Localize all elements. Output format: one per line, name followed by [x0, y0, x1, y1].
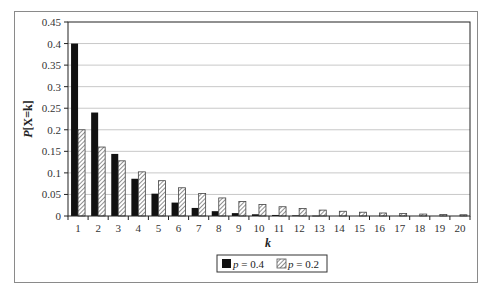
- y-tick-label: 0.3: [47, 81, 61, 93]
- bar-p04: [131, 179, 138, 216]
- x-tick-label: 5: [156, 222, 162, 234]
- bar-p04: [111, 154, 118, 216]
- x-axis: 1234567891011121314151617181920: [68, 216, 470, 234]
- legend: p = 0.4 p = 0.2: [217, 255, 327, 272]
- legend-swatch-solid-icon: [222, 259, 231, 268]
- x-tick-label: 18: [414, 222, 426, 234]
- x-tick-label: 13: [314, 222, 326, 234]
- bar-p02: [339, 211, 346, 216]
- y-tick-label: 0.45: [42, 16, 62, 28]
- y-tick-label: 0.25: [42, 102, 62, 114]
- bar-p02: [319, 210, 326, 216]
- y-tick-label: 0: [56, 210, 62, 222]
- x-tick-label: 10: [253, 222, 265, 234]
- x-tick-label: 15: [354, 222, 366, 234]
- x-tick-label: 7: [196, 222, 202, 234]
- bar-p04: [192, 208, 199, 216]
- x-tick-label: 11: [274, 222, 285, 234]
- y-tick-label: 0.35: [42, 59, 62, 71]
- bar-p04: [71, 44, 78, 216]
- x-tick-label: 8: [216, 222, 222, 234]
- plot-area: [68, 22, 470, 216]
- x-tick-label: 9: [236, 222, 242, 234]
- bar-p02: [239, 202, 246, 216]
- bar-p02: [359, 212, 366, 216]
- y-axis-title: P[X=k]: [21, 100, 35, 138]
- x-tick-label: 12: [294, 222, 305, 234]
- bar-p02: [279, 207, 286, 216]
- bar-p04: [151, 194, 158, 216]
- x-tick-label: 17: [394, 222, 406, 234]
- bar-p02: [98, 147, 105, 216]
- x-tick-label: 6: [176, 222, 182, 234]
- x-tick-label: 4: [136, 222, 142, 234]
- bar-p02: [118, 161, 125, 216]
- x-tick-label: 2: [95, 222, 101, 234]
- bar-p04: [172, 203, 179, 216]
- bar-p04: [212, 211, 219, 216]
- x-axis-title: k: [265, 236, 271, 250]
- bar-p02: [158, 181, 165, 216]
- x-tick-label: 20: [454, 222, 466, 234]
- legend-swatch-hatch-icon: [277, 259, 286, 268]
- bar-p02: [199, 193, 206, 216]
- bar-p02: [259, 204, 266, 216]
- x-tick-label: 1: [75, 222, 81, 234]
- legend-label-p04: p = 0.4: [232, 258, 264, 270]
- y-axis: 00.050.10.150.20.250.30.350.40.45: [42, 16, 68, 222]
- bar-p02: [219, 198, 226, 216]
- y-tick-label: 0.2: [47, 124, 61, 136]
- y-tick-label: 0.4: [47, 38, 61, 50]
- bar-p04: [91, 113, 98, 216]
- x-tick-label: 14: [334, 222, 346, 234]
- bar-p02: [78, 130, 85, 216]
- bar-p02: [179, 188, 186, 216]
- x-tick-label: 3: [116, 222, 122, 234]
- bar-p02: [299, 209, 306, 216]
- x-tick-label: 16: [374, 222, 386, 234]
- gridlines: [68, 44, 470, 195]
- x-tick-label: 19: [434, 222, 446, 234]
- legend-label-p02: p = 0.2: [287, 258, 319, 270]
- y-tick-label: 0.05: [42, 188, 62, 200]
- bar-p02: [138, 172, 145, 216]
- y-tick-label: 0.15: [42, 145, 62, 157]
- bar-chart: 00.050.10.150.20.250.30.350.40.45 123456…: [0, 0, 488, 297]
- y-tick-label: 0.1: [47, 167, 61, 179]
